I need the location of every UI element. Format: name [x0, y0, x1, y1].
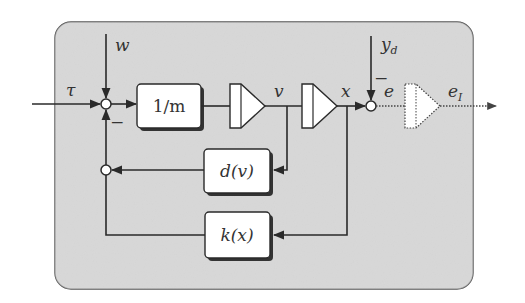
sum-junction-error — [366, 101, 376, 111]
e-label: e — [384, 81, 394, 101]
inv-mass-block: 1/m — [137, 84, 204, 131]
feedback-sum-junction — [101, 165, 111, 175]
stiffness-block: k(x) — [205, 212, 273, 261]
w-label: w — [115, 35, 130, 55]
sum1-minus-sign: − — [110, 112, 124, 132]
sum-junction-force — [101, 99, 111, 109]
inv-mass-label: 1/m — [153, 96, 186, 116]
damping-label: d(v) — [220, 161, 254, 181]
block-diagram: τ w − 1/m v x yd − — [0, 0, 525, 303]
v-label: v — [274, 81, 284, 101]
tau-label: τ — [66, 80, 76, 100]
stiffness-label: k(x) — [220, 225, 253, 245]
x-label: x — [341, 81, 351, 101]
damping-block: d(v) — [204, 149, 273, 196]
